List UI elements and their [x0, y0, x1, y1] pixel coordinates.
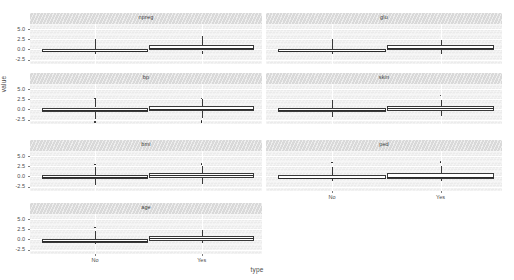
y-tick-mark: [28, 219, 30, 220]
x-axis-title: type: [0, 266, 514, 273]
boxplot-bmi-Yes: [30, 151, 262, 191]
median-line: [149, 238, 255, 239]
y-tick-label: 2.5: [4, 96, 25, 102]
y-tick-label: 0.0: [4, 106, 25, 112]
whisker-upper: [202, 36, 203, 45]
y-tick-mark: [28, 156, 30, 157]
whisker-upper: [441, 166, 442, 174]
y-tick-label: 0.0: [4, 173, 25, 179]
x-tick-label-yes: Yes: [188, 257, 216, 263]
y-tick-label: 0.0: [4, 46, 25, 52]
y-tick-mark: [28, 89, 30, 90]
facet-ped: ped: [266, 140, 502, 191]
outlier-point: [201, 121, 203, 123]
x-tick-mark: [332, 191, 333, 193]
x-tick-mark: [202, 254, 203, 256]
y-tick-label: 2.5: [4, 226, 25, 232]
boxplot-glu-Yes: [266, 24, 502, 64]
facet-strip-bp: bp: [30, 73, 262, 84]
y-tick-mark: [28, 49, 30, 50]
y-tick-label: 2.5: [4, 36, 25, 42]
whisker-upper: [202, 99, 203, 106]
facet-age: age: [30, 203, 262, 254]
facet-bp: bp: [30, 73, 262, 124]
boxplot-skin-Yes: [266, 84, 502, 124]
whisker-lower: [202, 51, 203, 54]
outlier-point: [440, 161, 442, 163]
y-tick-mark: [28, 229, 30, 230]
x-tick-mark: [95, 254, 96, 256]
y-tick-label: -2.5: [4, 56, 25, 62]
median-line: [387, 177, 494, 178]
facet-strip-glu: glu: [266, 13, 502, 24]
y-tick-label: 5.0: [4, 216, 25, 222]
whisker-lower: [441, 179, 442, 181]
median-line: [149, 48, 255, 49]
facet-strip-skin: skin: [266, 73, 502, 84]
facet-strip-age: age: [30, 203, 262, 214]
facet-strip-npreg: npreg: [30, 13, 262, 24]
x-tick-label-no: No: [81, 257, 109, 263]
y-tick-mark: [28, 60, 30, 61]
boxplot-npreg-Yes: [30, 24, 262, 64]
whisker-lower: [202, 178, 203, 184]
y-tick-mark: [28, 39, 30, 40]
whisker-lower: [441, 50, 442, 53]
whisker-lower: [441, 111, 442, 117]
median-line: [149, 109, 255, 110]
facet-panel-skin: [266, 84, 502, 124]
whisker-lower: [202, 241, 203, 243]
facet-panel-bmi: [30, 151, 262, 191]
y-tick-mark: [28, 99, 30, 100]
x-tick-label-yes: Yes: [427, 194, 455, 200]
facet-label-glu: glu: [266, 14, 502, 20]
y-tick-mark: [28, 109, 30, 110]
facet-panel-glu: [266, 24, 502, 64]
outlier-point: [440, 95, 442, 97]
y-tick-mark: [28, 250, 30, 251]
y-tick-label: -2.5: [4, 116, 25, 122]
y-tick-label: 5.0: [4, 26, 25, 32]
median-line: [387, 48, 494, 49]
y-tick-label: 5.0: [4, 86, 25, 92]
facet-label-bmi: bmi: [30, 141, 262, 147]
facet-strip-ped: ped: [266, 140, 502, 151]
facet-label-ped: ped: [266, 141, 502, 147]
facet-panel-bp: [30, 84, 262, 124]
facet-panel-age: [30, 214, 262, 254]
y-tick-mark: [28, 120, 30, 121]
median-line: [387, 108, 494, 109]
y-tick-mark: [28, 239, 30, 240]
whisker-lower: [202, 111, 203, 118]
median-line: [149, 175, 255, 176]
facet-label-age: age: [30, 204, 262, 210]
facet-label-skin: skin: [266, 74, 502, 80]
y-tick-label: 2.5: [4, 163, 25, 169]
facet-bmi: bmi: [30, 140, 262, 191]
x-tick-label-no: No: [318, 194, 346, 200]
boxplot-ped-Yes: [266, 151, 502, 191]
faceted-boxplot-figure: value type npregglubpskinbmipedage 5.02.…: [0, 0, 514, 280]
facet-npreg: npreg: [30, 13, 262, 64]
boxplot-age-Yes: [30, 214, 262, 254]
y-tick-mark: [28, 176, 30, 177]
y-tick-label: -2.5: [4, 183, 25, 189]
y-tick-mark: [28, 166, 30, 167]
y-tick-label: 5.0: [4, 153, 25, 159]
facet-label-npreg: npreg: [30, 14, 262, 20]
outlier-point: [201, 163, 203, 165]
y-tick-label: -2.5: [4, 246, 25, 252]
facet-label-bp: bp: [30, 74, 262, 80]
y-tick-mark: [28, 29, 30, 30]
facet-skin: skin: [266, 73, 502, 124]
boxplot-bp-Yes: [30, 84, 262, 124]
x-tick-mark: [441, 191, 442, 193]
facet-panel-ped: [266, 151, 502, 191]
y-tick-label: 0.0: [4, 236, 25, 242]
facet-panel-npreg: [30, 24, 262, 64]
facet-glu: glu: [266, 13, 502, 64]
y-tick-mark: [28, 187, 30, 188]
facet-strip-bmi: bmi: [30, 140, 262, 151]
